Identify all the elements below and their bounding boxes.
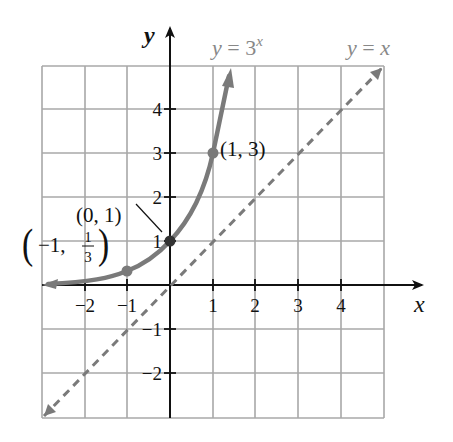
svg-text:4: 4 — [153, 99, 163, 120]
point-label-1-3: (1, 3) — [220, 137, 266, 161]
svg-text:2: 2 — [153, 187, 163, 208]
svg-text:(: ( — [22, 220, 33, 267]
curve-label-line: y = x — [345, 35, 390, 60]
svg-text:2: 2 — [250, 295, 260, 316]
svg-text:−1: −1 — [142, 319, 162, 340]
curve-arrow-up-icon — [222, 68, 234, 88]
point-1-3 — [208, 148, 219, 159]
svg-text:3: 3 — [293, 295, 303, 316]
x-axis-label: x — [413, 291, 425, 317]
svg-text:−2: −2 — [75, 295, 95, 316]
svg-text:3: 3 — [84, 249, 92, 265]
chart-canvas: −2 −1 1 2 3 4 4 3 2 1 −1 −2 x y y = 3x y… — [0, 0, 453, 442]
y-axis-label: y — [141, 22, 155, 48]
svg-text:−1: −1 — [117, 295, 137, 316]
svg-text:3: 3 — [153, 143, 163, 164]
point-label-neg1-third: ( −1, 1 3 ) — [22, 220, 109, 267]
svg-text:): ) — [98, 220, 109, 267]
svg-text:4: 4 — [336, 295, 346, 316]
line-arrow-up-icon — [370, 68, 382, 80]
svg-text:−1,: −1, — [38, 233, 66, 257]
svg-text:1: 1 — [84, 229, 92, 245]
svg-text:1: 1 — [208, 295, 218, 316]
curve-label-exp: y = 3x — [210, 33, 263, 60]
point-neg1-third — [122, 266, 133, 277]
point-0-1 — [165, 236, 176, 247]
x-tick-labels: −2 −1 1 2 3 4 — [75, 295, 346, 316]
svg-text:−2: −2 — [142, 363, 162, 384]
leader-line — [136, 204, 162, 232]
